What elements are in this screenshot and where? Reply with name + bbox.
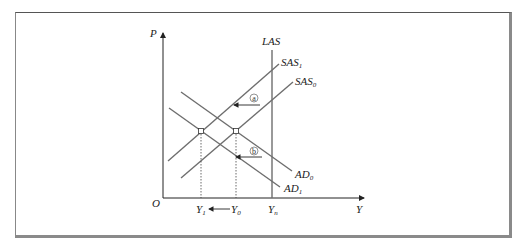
y0-tick-label: Y0 [231,203,241,217]
origin-label: O [152,197,160,209]
p-axis-label: P [149,27,157,39]
ad1-label: AD1 [283,182,302,196]
ad-as-diagram: a b P Y O LAS SAS1 SAS0 AD0 AD1 Y1 Y0 Yn [0,0,525,250]
equilibrium-point-0 [234,129,239,134]
y-axis-label: Y [356,203,364,215]
equilibrium-point-1 [199,129,204,134]
las-label: LAS [261,35,281,47]
y1-tick-label: Y1 [196,203,206,217]
marker-a-label: a [252,94,256,103]
sas1-label: SAS1 [281,56,302,70]
yn-tick-label: Yn [268,203,278,217]
marker-b-label: b [252,147,256,156]
ad1-curve [169,108,280,187]
ad0-label: AD0 [294,168,314,182]
sas0-label: SAS0 [295,75,317,89]
